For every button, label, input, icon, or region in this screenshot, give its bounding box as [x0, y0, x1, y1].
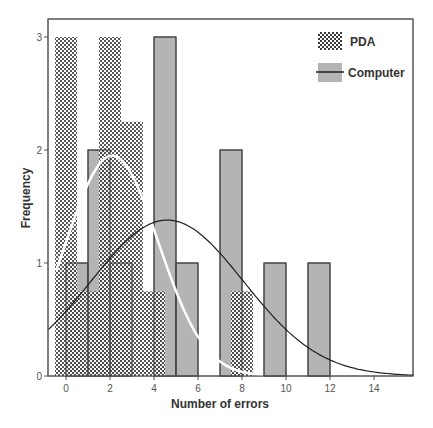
computer-bar	[264, 263, 286, 376]
pda-swatch-icon	[318, 32, 342, 50]
y-tick-label: 3	[36, 32, 42, 43]
legend-label-pda: PDA	[350, 35, 376, 49]
x-tick-label: 14	[368, 383, 380, 394]
x-tick-label: 4	[151, 383, 157, 394]
x-tick-label: 0	[63, 383, 69, 394]
legend-item-computer: Computer	[316, 63, 405, 82]
x-tick-label: 8	[239, 383, 245, 394]
y-axis-title: Frequency	[19, 167, 33, 228]
x-tick-label: 6	[195, 383, 201, 394]
y-tick-label: 1	[36, 258, 42, 269]
y-axis: 0123	[36, 32, 48, 382]
y-tick-label: 2	[36, 145, 42, 156]
x-tick-label: 2	[107, 383, 113, 394]
x-axis: 02468101214	[63, 376, 380, 394]
y-tick-label: 0	[36, 371, 42, 382]
computer-bar	[176, 263, 198, 376]
legend-label-computer: Computer	[348, 66, 405, 80]
histogram-chart: 0123 02468101214 Frequency Number of err…	[0, 0, 433, 428]
x-tick-label: 10	[280, 383, 292, 394]
x-tick-label: 12	[324, 383, 336, 394]
x-axis-title: Number of errors	[171, 397, 269, 411]
